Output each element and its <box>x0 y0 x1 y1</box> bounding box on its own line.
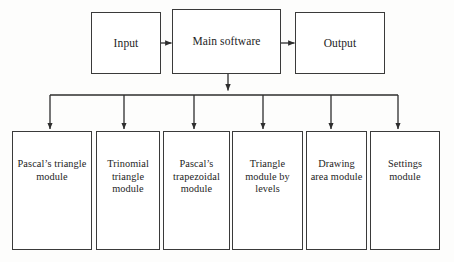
node-drawing-area-module[interactable]: Drawing area module <box>306 131 367 250</box>
node-trinomial-triangle-module-label: Trinomial triangle module <box>97 158 159 196</box>
node-pascals-trapezoidal-module[interactable]: Pascal’s trapezoidal module <box>163 131 230 250</box>
node-pascals-triangle-module[interactable]: Pascal’s triangle module <box>12 131 92 250</box>
node-output-label: Output <box>296 36 384 50</box>
node-trinomial-triangle-module[interactable]: Trinomial triangle module <box>96 131 160 250</box>
architecture-diagram: Input Main software Output Pascal’s tria… <box>0 0 454 262</box>
node-input-label: Input <box>92 36 160 50</box>
node-settings-module[interactable]: Settings module <box>370 131 440 250</box>
node-drawing-area-module-label: Drawing area module <box>307 158 366 183</box>
node-pascals-trapezoidal-module-label: Pascal’s trapezoidal module <box>164 158 229 196</box>
node-input[interactable]: Input <box>91 12 161 74</box>
node-output[interactable]: Output <box>295 12 385 74</box>
node-triangle-module-by-levels-label: Triangle module by levels <box>233 158 302 196</box>
node-triangle-module-by-levels[interactable]: Triangle module by levels <box>232 131 303 250</box>
node-settings-module-label: Settings module <box>371 158 439 183</box>
node-pascals-triangle-module-label: Pascal’s triangle module <box>13 158 91 183</box>
node-main-software[interactable]: Main software <box>172 9 281 74</box>
node-main-software-label: Main software <box>173 34 280 48</box>
